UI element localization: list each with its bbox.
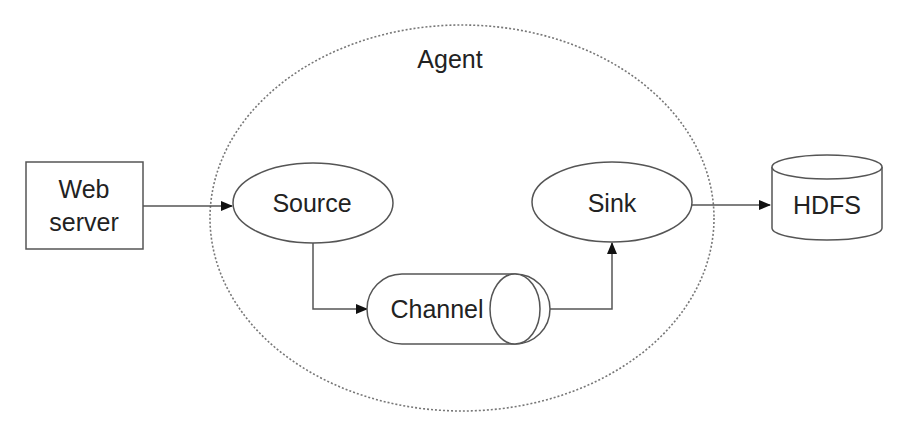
channel-label: Channel bbox=[390, 295, 483, 323]
sink-label: Sink bbox=[588, 189, 637, 217]
web-server-label-line2: server bbox=[49, 208, 118, 236]
sink-node[interactable]: Sink bbox=[532, 162, 692, 242]
flume-diagram: Agent Web server Source Channel Sink HDF… bbox=[0, 0, 906, 430]
edge-channel-sink bbox=[550, 243, 612, 309]
edge-source-channel bbox=[313, 243, 367, 309]
channel-end-cap bbox=[490, 274, 540, 344]
agent-label: Agent bbox=[417, 45, 482, 73]
hdfs-top-cap bbox=[772, 155, 882, 179]
hdfs-node[interactable]: HDFS bbox=[772, 155, 882, 240]
source-label: Source bbox=[272, 189, 351, 217]
source-node[interactable]: Source bbox=[233, 163, 393, 243]
web-server-node[interactable]: Web server bbox=[26, 162, 143, 249]
channel-node[interactable]: Channel bbox=[367, 274, 550, 344]
web-server-label-line1: Web bbox=[59, 175, 110, 203]
hdfs-label: HDFS bbox=[793, 191, 861, 219]
